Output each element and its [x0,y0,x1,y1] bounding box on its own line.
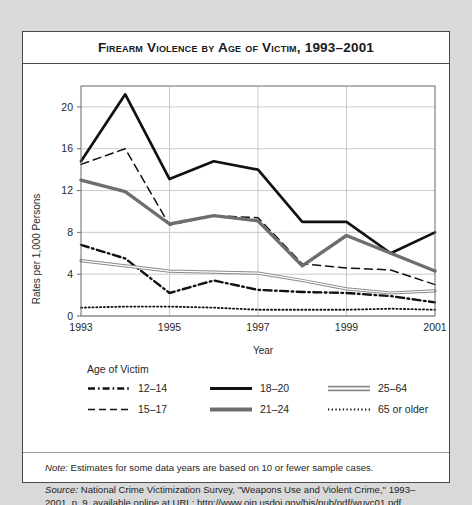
legend-swatch-dashed-icon [87,404,131,415]
legend-item-25-64[interactable]: 25–64 [327,382,457,394]
page-title: Firearm Violence by Age of Victim, 1993–… [98,40,374,55]
x-tick-label: 1995 [158,321,182,333]
source-text: Source: National Crime Victimization Sur… [45,484,427,505]
legend-items: 12–1418–2025–6415–1721–2465 or older [87,382,449,415]
legend-label: 21–24 [260,403,289,415]
y-tick-label: 0 [67,310,73,322]
x-tick-label: 1997 [246,321,270,333]
chart-title-bar: Firearm Violence by Age of Victim, 1993–… [23,32,449,64]
figure-container: Firearm Violence by Age of Victim, 1993–… [22,31,450,483]
chart-legend: Age of Victim 12–1418–2025–6415–1721–246… [23,363,449,415]
legend-label: 12–14 [138,382,167,394]
legend-item-18-20[interactable]: 18–20 [209,382,327,394]
legend-swatch-dotted-icon [327,404,371,415]
x-axis-label: Year [253,345,274,356]
legend-label: 65 or older [378,403,428,415]
x-tick-label: 2001 [423,321,447,333]
legend-item-65-or-older[interactable]: 65 or older [327,403,457,415]
legend-swatch-solid-thick-icon [209,383,253,394]
footnotes: Note: Estimates for some data years are … [23,452,449,505]
y-tick-label: 20 [61,101,73,113]
note-label: Note: [45,462,68,473]
legend-swatch-dash-dot-icon [87,383,131,394]
line-chart: 19931995199719992001 048121620 Rates per… [23,64,451,364]
legend-item-15-17[interactable]: 15–17 [87,403,209,415]
legend-title: Age of Victim [87,363,449,375]
legend-label: 15–17 [138,403,167,415]
note-body: Estimates for some data years are based … [68,462,374,473]
y-tick-label: 4 [67,268,73,280]
legend-label: 18–20 [260,382,289,394]
note-text: Note: Estimates for some data years are … [45,462,427,475]
x-tick-label: 1999 [335,321,359,333]
legend-swatch-double-line-icon [327,383,371,394]
x-tick-label: 1993 [69,321,93,333]
y-axis-label: Rates per 1,000 Persons [31,194,42,305]
y-tick-label: 16 [61,142,73,154]
source-label: Source: [45,484,78,495]
legend-item-21-24[interactable]: 21–24 [209,403,327,415]
y-tick-label: 12 [61,184,73,196]
legend-label: 25–64 [378,382,407,394]
legend-item-12-14[interactable]: 12–14 [87,382,209,394]
y-tick-label: 8 [67,226,73,238]
source-body: National Crime Victimization Survey, "We… [45,484,415,505]
plot-area: 19931995199719992001 048121620 Rates per… [23,64,449,364]
x-axis-ticks: 19931995199719992001 [69,321,447,333]
legend-swatch-solid-thick-gray-icon [209,404,253,415]
gridlines [81,86,435,316]
y-axis-ticks: 048121620 [61,101,81,322]
